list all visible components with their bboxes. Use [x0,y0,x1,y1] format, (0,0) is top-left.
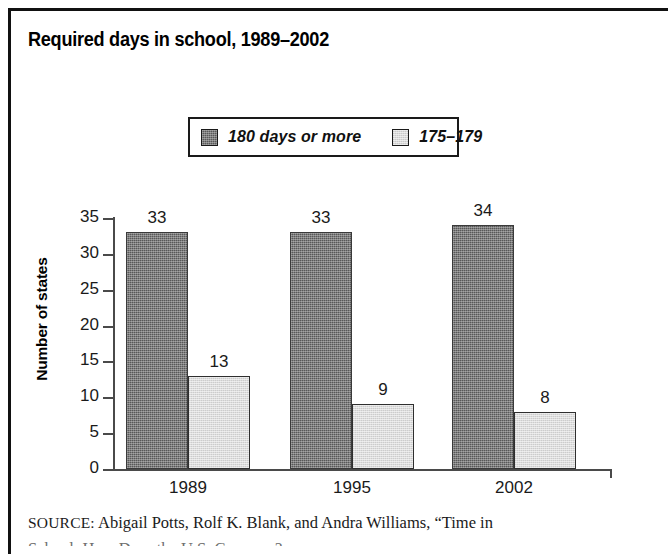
bar-value-label: 13 [188,352,250,372]
y-axis-tick-label: 5 [51,422,99,442]
y-axis-tick-label: 10 [51,386,99,406]
y-axis-tick-label-wrap: 35 [31,218,113,220]
source-note-text: Abigail Potts, Rolf K. Blank, and Andra … [98,513,493,532]
y-axis-tick-label-wrap: 30 [31,254,113,256]
bar-1989-series-0 [126,232,188,469]
y-axis-tick-label-wrap: 15 [31,361,113,363]
y-axis-tick-label: 0 [51,458,99,478]
source-note-second-line: School: How Does the U.S. Compare? [28,539,628,546]
x-axis-line [113,469,612,471]
x-axis-label-1989: 1989 [126,478,250,498]
y-axis-tick-label-wrap: 25 [31,290,113,292]
bar-1995-series-1 [352,404,414,469]
y-axis-title: Number of states [33,239,51,399]
y-axis-tick-label: 20 [51,315,99,335]
y-axis-tick-label: 30 [51,243,99,263]
y-axis-tick-label-wrap: 10 [31,397,113,399]
x-axis-label-1995: 1995 [290,478,414,498]
x-axis-end-tick [610,469,612,478]
bar-value-label: 34 [452,201,514,221]
y-axis-tick-label-wrap: 20 [31,326,113,328]
y-axis-tick-label-wrap: 5 [31,433,113,435]
x-axis-label-2002: 2002 [452,478,576,498]
bar-2002-series-1 [514,412,576,469]
y-axis-tick-label: 35 [51,207,99,227]
y-axis-tick-label: 15 [51,350,99,370]
y-axis-tick-label-wrap: 0 [31,469,113,471]
y-axis-tick-label: 25 [51,279,99,299]
y-axis-line [113,217,115,471]
bar-value-label: 8 [514,388,576,408]
bar-value-label: 9 [352,380,414,400]
bar-value-label: 33 [126,208,188,228]
bar-1989-series-1 [188,376,250,469]
bar-2002-series-0 [452,225,514,469]
bar-1995-series-0 [290,232,352,469]
bar-value-label: 33 [290,208,352,228]
source-note: SOURCE: Abigail Potts, Rolf K. Blank, an… [28,513,628,533]
source-note-label: SOURCE: [28,514,95,531]
